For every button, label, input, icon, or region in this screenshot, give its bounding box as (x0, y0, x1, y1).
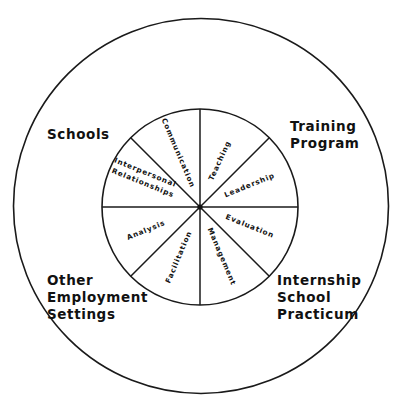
setting-line: Training (290, 118, 356, 134)
wedge-label-evaluation: Evaluation (224, 212, 275, 240)
wedge-label-interpersonal-relationships: Interpersonal Relationships (109, 156, 181, 200)
setting-label-other-employment-settings: Other Employment Settings (47, 272, 153, 322)
setting-line: Other (47, 272, 93, 288)
setting-line: Practicum (277, 306, 359, 322)
wedge-line: Analysis (125, 218, 166, 242)
competency-wheel-diagram: Schools Training Program Other Employmen… (0, 0, 402, 400)
wedge-line: Facilitation (163, 229, 193, 284)
wedge-label-facilitation: Facilitation (163, 229, 193, 284)
wedge-line: Leadership (223, 171, 276, 200)
setting-line: Settings (47, 306, 116, 322)
wedge-label-management: Management (206, 226, 238, 287)
competency-labels: Communication Teaching Leadership Evalua… (109, 117, 276, 287)
setting-labels: Schools Training Program Other Employmen… (47, 118, 367, 322)
wedge-label-leadership: Leadership (223, 171, 276, 200)
setting-label-training-program: Training Program (290, 118, 362, 151)
wedge-label-teaching: Teaching (206, 139, 232, 182)
setting-line: Schools (47, 126, 110, 142)
wedge-line: Evaluation (224, 212, 275, 240)
setting-line: Internship (277, 272, 361, 288)
wedge-line: Management (206, 226, 238, 287)
setting-line: Employment (47, 289, 148, 305)
setting-line: Program (290, 135, 360, 151)
setting-label-schools: Schools (47, 126, 110, 142)
wedge-label-analysis: Analysis (125, 218, 166, 242)
center-hub (197, 204, 202, 209)
setting-label-internship-school-practicum: Internship School Practicum (277, 272, 367, 322)
setting-line: School (277, 289, 331, 305)
wedge-line: Teaching (206, 139, 232, 182)
